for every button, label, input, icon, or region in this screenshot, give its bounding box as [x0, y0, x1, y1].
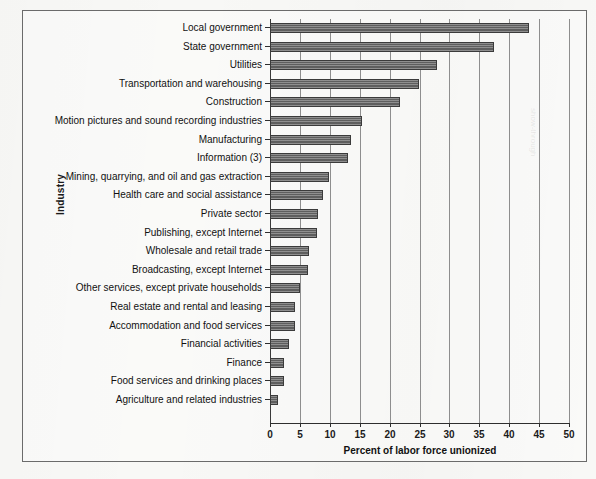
category-label: Health care and social assistance: [113, 186, 268, 204]
bar: [270, 172, 329, 182]
bar-row: State government: [23, 38, 586, 56]
bar: [270, 228, 317, 238]
page-background: show-through Industry Percent of labor f…: [0, 0, 596, 479]
x-tick-label-45: 45: [524, 429, 554, 440]
category-label: Other services, except private household…: [76, 279, 268, 297]
bar: [270, 97, 400, 107]
bar: [270, 339, 289, 349]
bar: [270, 79, 419, 89]
bar: [270, 321, 295, 331]
x-tick-50: [569, 423, 570, 427]
bar-row: Information (3): [23, 149, 586, 167]
category-label: Private sector: [201, 205, 268, 223]
category-label: Finance: [226, 354, 268, 372]
bar-row: Transportation and warehousing: [23, 75, 586, 93]
x-tick-label-50: 50: [554, 429, 584, 440]
category-label: Agriculture and related industries: [116, 391, 268, 409]
bar-row: Local government: [23, 19, 586, 37]
bar: [270, 246, 309, 256]
x-tick-45: [539, 423, 540, 427]
bar: [270, 190, 323, 200]
x-tick-10: [330, 423, 331, 427]
x-tick-label-20: 20: [375, 429, 405, 440]
bar-row: Utilities: [23, 56, 586, 74]
category-label: State government: [183, 38, 268, 56]
category-label: Wholesale and retail trade: [146, 242, 268, 260]
x-axis-title: Percent of labor force unionized: [270, 445, 570, 456]
category-label: Utilities: [230, 56, 268, 74]
category-label: Transportation and warehousing: [119, 75, 268, 93]
x-tick-label-15: 15: [345, 429, 375, 440]
category-label: Local government: [183, 19, 269, 37]
bar-row: Publishing, except Internet: [23, 224, 586, 242]
x-tick-label-30: 30: [434, 429, 464, 440]
bar-row: Motion pictures and sound recording indu…: [23, 112, 586, 130]
x-tick-30: [449, 423, 450, 427]
x-tick-20: [390, 423, 391, 427]
bar-row: Manufacturing: [23, 131, 586, 149]
bar: [270, 135, 351, 145]
category-label: Real estate and rental and leasing: [110, 298, 268, 316]
x-tick-35: [479, 423, 480, 427]
x-tick-label-0: 0: [255, 429, 285, 440]
bar: [270, 265, 308, 275]
bar: [270, 283, 300, 293]
bar-row: Finance: [23, 354, 586, 372]
x-tick-40: [509, 423, 510, 427]
category-label: Food services and drinking places: [111, 372, 268, 390]
category-label: Mining, quarrying, and oil and gas extra…: [66, 168, 268, 186]
bar-row: Accommodation and food services: [23, 317, 586, 335]
category-label: Publishing, except Internet: [144, 224, 268, 242]
bar: [270, 42, 494, 52]
bar-row: Broadcasting, except Internet: [23, 261, 586, 279]
x-tick-label-10: 10: [315, 429, 345, 440]
bar-row: Real estate and rental and leasing: [23, 298, 586, 316]
x-tick-5: [300, 423, 301, 427]
bar: [270, 116, 362, 126]
x-tick-label-35: 35: [464, 429, 494, 440]
x-tick-15: [360, 423, 361, 427]
category-label: Construction: [206, 93, 268, 111]
bar: [270, 209, 318, 219]
category-label: Motion pictures and sound recording indu…: [55, 112, 268, 130]
x-tick-label-25: 25: [405, 429, 435, 440]
bar: [270, 302, 295, 312]
x-tick-0: [270, 423, 271, 427]
x-tick-label-40: 40: [494, 429, 524, 440]
bar-row: Other services, except private household…: [23, 279, 586, 297]
bar: [270, 376, 284, 386]
bar-row: Construction: [23, 93, 586, 111]
bar-row: Financial activities: [23, 335, 586, 353]
bar-row: Private sector: [23, 205, 586, 223]
bar-row: Mining, quarrying, and oil and gas extra…: [23, 168, 586, 186]
bar: [270, 60, 437, 70]
category-label: Accommodation and food services: [109, 317, 268, 335]
bar: [270, 23, 529, 33]
bar-row: Health care and social assistance: [23, 186, 586, 204]
bar: [270, 153, 348, 163]
bar-row: Wholesale and retail trade: [23, 242, 586, 260]
category-label: Manufacturing: [199, 131, 268, 149]
bar-row: Food services and drinking places: [23, 372, 586, 390]
bar-row: Agriculture and related industries: [23, 391, 586, 409]
bar: [270, 395, 278, 405]
x-tick-label-5: 5: [285, 429, 315, 440]
bar: [270, 358, 284, 368]
chart-frame: Industry Percent of labor force unionize…: [22, 10, 587, 462]
x-tick-25: [420, 423, 421, 427]
category-label: Financial activities: [181, 335, 268, 353]
category-label: Broadcasting, except Internet: [132, 261, 268, 279]
category-label: Information (3): [197, 149, 268, 167]
